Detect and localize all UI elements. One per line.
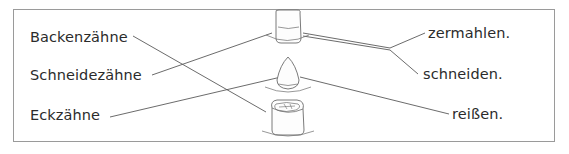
molar-tooth-top <box>266 10 309 43</box>
line-backenzaehne <box>133 36 266 112</box>
line-reissen <box>300 77 449 114</box>
label-reissen[interactable]: reißen. <box>452 107 503 122</box>
line-eckzaehne <box>110 77 281 117</box>
line-schneiden <box>303 36 418 74</box>
label-eckzaehne[interactable]: Eckzähne <box>30 108 100 123</box>
worksheet: Backenzähne Schneidezähne Eckzähne zerma… <box>0 0 569 154</box>
label-zermahlen[interactable]: zermahlen. <box>428 26 510 41</box>
label-backenzaehne[interactable]: Backenzähne <box>30 30 128 45</box>
label-schneiden[interactable]: schneiden. <box>423 67 503 82</box>
line-schneidezaehne <box>152 33 272 75</box>
molar-occlusal-tooth-bottom <box>262 100 314 136</box>
canine-tooth-middle <box>265 57 311 92</box>
label-schneidezaehne[interactable]: Schneidezähne <box>30 68 142 83</box>
